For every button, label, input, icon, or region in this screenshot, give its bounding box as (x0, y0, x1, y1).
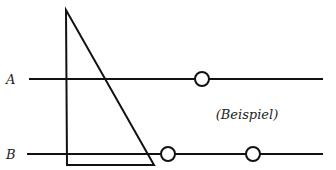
triangle-shape (66, 10, 154, 165)
circle-on-line-b-1 (161, 147, 175, 161)
example-note: (Beispiel) (216, 107, 279, 122)
label-line-b: B (5, 147, 16, 162)
diagram-canvas: A B (Beispiel) (0, 0, 336, 170)
circle-on-line-b-2 (246, 147, 260, 161)
circle-on-line-a (195, 72, 209, 86)
label-line-a: A (5, 72, 15, 87)
